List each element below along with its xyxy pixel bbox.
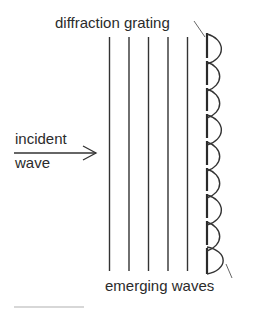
emerging-wavelets [207,34,223,274]
diffraction-diagram: diffraction grating incident wave [0,0,254,309]
emerging-leader-line [226,264,232,278]
cropped-caption-fragment [14,304,84,309]
emerging-waves-label: emerging waves [105,277,214,294]
wave-label: wave [14,154,50,171]
incident-label: incident [15,130,68,147]
diffraction-grating-label: diffraction grating [55,14,170,31]
grating-leader-line [194,21,205,37]
incident-wavefronts [110,37,188,271]
